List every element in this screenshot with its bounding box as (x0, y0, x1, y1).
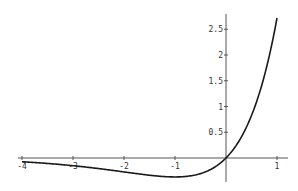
x-tick-label: 1 (275, 162, 280, 171)
y-axis-ticks: 0.511.522.5 (209, 25, 228, 137)
x-tick-label: -2 (119, 162, 129, 171)
x-tick-label: -1 (170, 162, 180, 171)
function-curve (22, 18, 277, 177)
y-tick-label: 1.5 (209, 77, 224, 86)
plot-area: -4-3-2-11 0.511.522.5 (0, 0, 298, 191)
y-tick-label: 2 (218, 51, 223, 60)
y-tick-label: 1 (218, 103, 223, 112)
x-tick-label: -4 (17, 162, 27, 171)
y-tick-label: 2.5 (209, 25, 224, 34)
y-tick-label: 0.5 (209, 128, 224, 137)
